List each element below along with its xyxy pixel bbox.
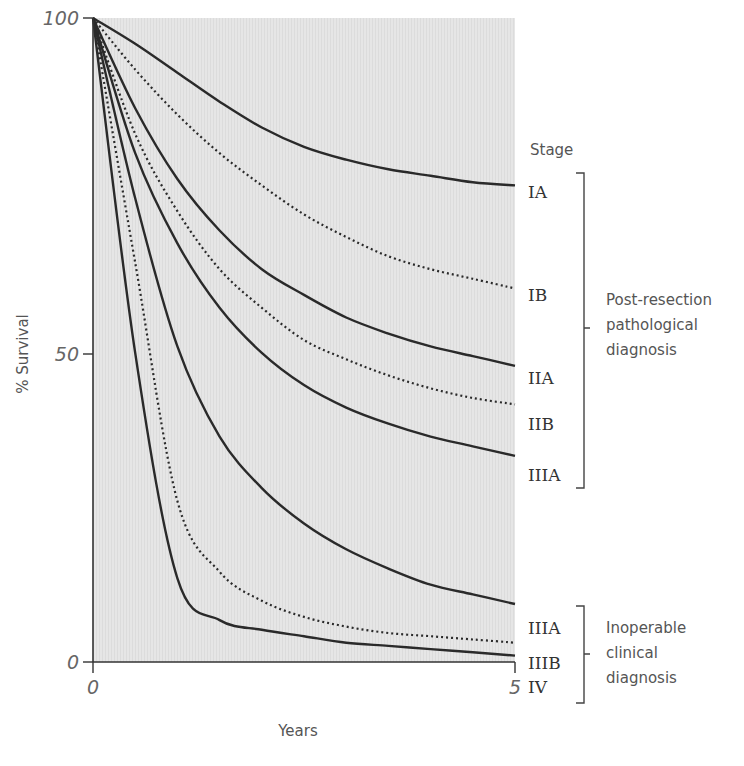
- group-label-post-resection-1: Post-resection: [606, 291, 712, 309]
- group-label-inoperable-2: clinical: [606, 644, 658, 662]
- y-tick-label-50: 50: [55, 343, 79, 365]
- x-tick-label-0: 0: [87, 676, 99, 698]
- stage-label-iiia-clin: IIIA: [528, 618, 561, 638]
- stage-label-iiia-path: IIIA: [528, 465, 561, 485]
- plot-background: [93, 18, 515, 662]
- y-tick-label-0: 0: [67, 651, 79, 673]
- stage-label-iiib: IIIB: [528, 653, 561, 673]
- stage-label-iv: IV: [528, 677, 548, 697]
- stage-label-ib: IB: [528, 285, 547, 305]
- x-axis-title: Years: [277, 722, 318, 740]
- stage-label-iia: IIA: [528, 368, 554, 388]
- bracket-inoperable: [576, 606, 590, 703]
- group-label-inoperable-3: diagnosis: [606, 669, 677, 687]
- group-label-post-resection-2: pathological: [606, 316, 698, 334]
- stage-label-iib: IIB: [528, 414, 554, 434]
- group-label-inoperable-1: Inoperable: [606, 619, 686, 637]
- y-tick-label-100: 100: [43, 7, 79, 29]
- stage-label-ia: IA: [528, 182, 548, 202]
- legend-title: Stage: [530, 141, 573, 159]
- group-label-post-resection-3: diagnosis: [606, 341, 677, 359]
- bracket-post-resection: [576, 173, 590, 488]
- survival-chart: 100 50 0 0 5 % Survival Years Stage IA I…: [0, 0, 744, 766]
- x-tick-label-5: 5: [509, 676, 521, 698]
- y-axis-title: % Survival: [14, 314, 32, 394]
